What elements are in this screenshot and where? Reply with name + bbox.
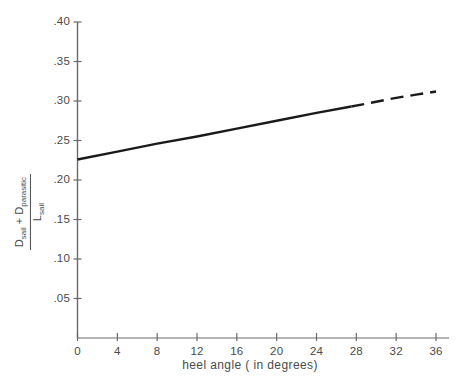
x-tick-label: 32: [380, 345, 412, 357]
x-tick-label: 16: [221, 345, 253, 357]
y-tick-label: .35: [38, 55, 70, 67]
chart-series-line: [78, 107, 352, 160]
x-tick-label: 36: [420, 345, 452, 357]
y-axis-title: Dsail + Dparasitic Lsail: [14, 152, 46, 272]
y-tick-label: .40: [38, 15, 70, 27]
numerator-d-sail-symbol: D: [13, 239, 25, 247]
x-tick-label: 0: [62, 345, 94, 357]
numerator-d-parasitic-symbol: D: [13, 207, 25, 215]
y-axis-title-fraction: Dsail + Dparasitic Lsail: [14, 174, 46, 250]
x-axis-title: heel angle ( in degrees): [120, 358, 380, 372]
numerator-d-sail-subscript: sail: [19, 227, 28, 239]
chart-series-group: [78, 92, 437, 160]
chart-series-line: [351, 92, 436, 107]
chart-figure: .05.10.15.20.25.30.35.40 048121620242832…: [0, 0, 470, 391]
y-axis-title-numerator: Dsail + Dparasitic: [14, 174, 30, 250]
denominator-l-sail-symbol: L: [31, 215, 43, 221]
numerator-d-parasitic-subscript: parasitic: [19, 177, 28, 207]
y-tick-label: .05: [38, 292, 70, 304]
y-tick-label: .30: [38, 94, 70, 106]
x-tick-label: 8: [141, 345, 173, 357]
y-tick-label: .25: [38, 134, 70, 146]
x-tick-label: 28: [340, 345, 372, 357]
numerator-plus-sign: +: [13, 218, 25, 224]
x-axis-ticks: [78, 333, 437, 341]
y-axis-title-denominator: Lsail: [31, 200, 47, 224]
chart-plot-area: [0, 0, 470, 391]
x-tick-label: 20: [261, 345, 293, 357]
denominator-l-sail-subscript: sail: [37, 203, 46, 215]
x-tick-label: 12: [181, 345, 213, 357]
x-tick-label: 24: [301, 345, 333, 357]
x-tick-label: 4: [101, 345, 133, 357]
